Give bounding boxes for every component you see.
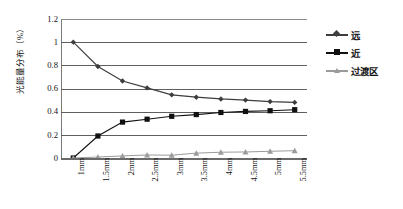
data-point-marker [243, 97, 248, 102]
y-tick-label: 0.4 [34, 107, 58, 115]
x-tick-label: 5mm [274, 158, 283, 204]
y-tick-label: 0.6 [34, 84, 58, 92]
x-tick-label: 3.5mm [200, 158, 209, 204]
series-line [73, 42, 294, 102]
data-point-marker [218, 96, 223, 101]
data-point-marker [145, 117, 150, 122]
data-point-marker [169, 92, 174, 97]
triangle-marker-icon [326, 65, 348, 77]
data-point-marker [194, 112, 199, 117]
x-tick-label: 1mm [77, 158, 86, 204]
y-axis-title: 光能量分布（%） [13, 0, 27, 119]
x-tick-label: 1.5mm [102, 158, 111, 204]
data-point-marker [267, 99, 272, 104]
legend-item-label: 过渡区 [351, 64, 378, 78]
series-triangle [70, 148, 297, 158]
series-square [71, 107, 298, 158]
y-tick-label: 1.2 [34, 15, 58, 23]
series-layer [61, 19, 307, 158]
data-point-marker [120, 119, 125, 124]
data-point-marker [144, 85, 149, 90]
y-tick-label: 1 [34, 38, 58, 46]
series-line [73, 110, 294, 158]
series-diamond [71, 39, 298, 105]
x-axis-tick-labels: 1mm1.5mm2mm2.5mm3mm3.5mm4mm4.5mm5mm5.5mm [61, 160, 307, 209]
legend-item-label: 远 [351, 28, 360, 42]
y-tick-label: 0 [34, 154, 58, 162]
data-point-marker [268, 108, 273, 113]
x-tick-label: 4mm [225, 158, 234, 204]
chart-legend: 远近过渡区 [326, 26, 398, 80]
legend-item-1[interactable]: 近 [326, 44, 398, 62]
series-line [73, 151, 294, 158]
legend-item-0[interactable]: 远 [326, 26, 398, 44]
diamond-marker-icon [326, 29, 348, 41]
x-tick-label: 4.5mm [250, 158, 259, 204]
data-point-marker [292, 107, 297, 112]
x-tick-label: 2.5mm [151, 158, 160, 204]
data-point-marker [243, 109, 248, 114]
data-point-marker [218, 110, 223, 115]
x-tick-label: 2mm [127, 158, 136, 204]
data-point-marker [194, 94, 199, 99]
data-point-marker [120, 78, 125, 83]
data-point-marker [169, 114, 174, 119]
plot-area [61, 19, 307, 158]
legend-item-2[interactable]: 过渡区 [326, 62, 398, 80]
data-point-marker [292, 100, 297, 105]
y-axis-tick-labels: 1.210.80.60.40.20 [30, 0, 58, 209]
x-tick-label: 3mm [176, 158, 185, 204]
x-tick-label: 5.5mm [299, 158, 308, 204]
data-point-marker [95, 133, 100, 138]
square-marker-icon [326, 47, 348, 59]
chart-container: 光能量分布（%） 1.210.80.60.40.20 1mm1.5mm2mm2.… [0, 0, 403, 209]
y-tick-label: 0.2 [34, 131, 58, 139]
legend-item-label: 近 [351, 46, 360, 60]
y-tick-label: 0.8 [34, 61, 58, 69]
